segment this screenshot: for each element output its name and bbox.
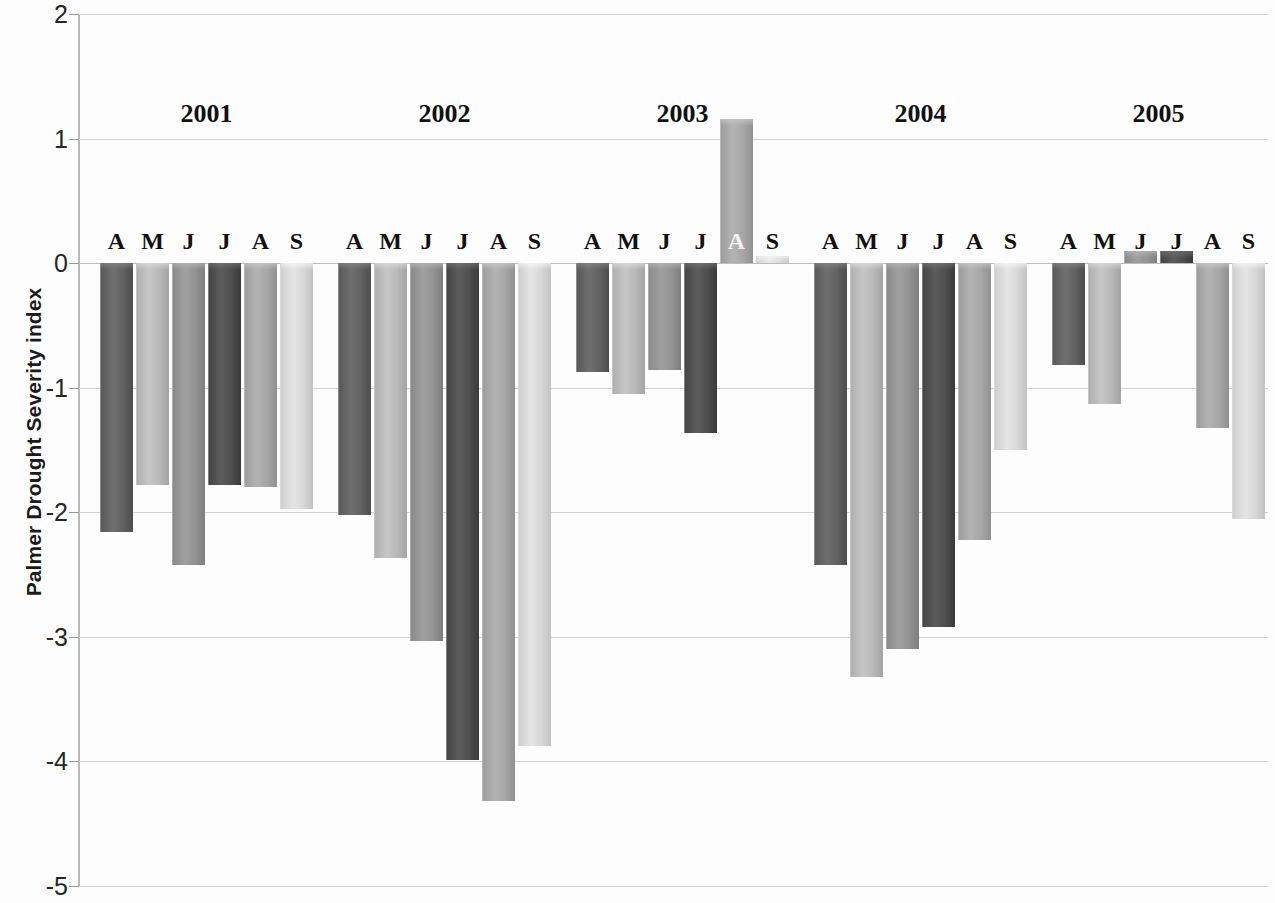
month-label-j-2: J xyxy=(183,228,195,255)
bar[interactable] xyxy=(850,263,883,677)
bar-top-highlight xyxy=(721,119,753,126)
month-label-j-2: J xyxy=(1135,228,1147,255)
year-label-2003: 2003 xyxy=(657,99,709,129)
month-label-a-0: A xyxy=(1060,228,1077,255)
palmer-drought-severity-bar-chart: Palmer Drought Severity index 210-1-2-3-… xyxy=(0,0,1275,903)
bar[interactable] xyxy=(814,263,847,564)
bar-top-highlight xyxy=(685,263,717,270)
bar[interactable] xyxy=(446,263,479,760)
bar-top-highlight xyxy=(173,263,205,270)
bar[interactable] xyxy=(208,263,241,485)
bar[interactable] xyxy=(994,263,1027,450)
y-tick-label: -3 xyxy=(20,622,68,651)
bar[interactable] xyxy=(136,263,169,485)
y-tick-label: 0 xyxy=(20,249,68,278)
y-tickmark xyxy=(69,637,79,638)
bar[interactable] xyxy=(244,263,277,487)
gridline-neg5 xyxy=(78,886,1268,887)
bar-top-highlight xyxy=(1233,263,1265,270)
y-tick-label: -5 xyxy=(20,872,68,901)
y-tick-label: -4 xyxy=(20,747,68,776)
month-label-j-3: J xyxy=(1171,228,1183,255)
bar-top-highlight xyxy=(815,263,847,270)
bar[interactable] xyxy=(576,263,609,371)
bar[interactable] xyxy=(100,263,133,532)
month-label-m-1: M xyxy=(379,228,402,255)
month-label-s-5: S xyxy=(290,228,303,255)
gridline-neg2 xyxy=(78,512,1268,513)
bar-top-highlight xyxy=(447,263,479,270)
bar[interactable] xyxy=(280,263,313,508)
bar[interactable] xyxy=(648,263,681,370)
bar[interactable] xyxy=(886,263,919,649)
month-label-a-0: A xyxy=(346,228,363,255)
bar-top-highlight xyxy=(851,263,883,270)
month-label-a-0: A xyxy=(822,228,839,255)
year-label-2004: 2004 xyxy=(895,99,947,129)
month-label-s-5: S xyxy=(1242,228,1255,255)
bar-top-highlight xyxy=(1089,263,1121,270)
bar[interactable] xyxy=(338,263,371,515)
bar[interactable] xyxy=(1052,263,1085,365)
month-label-j-3: J xyxy=(457,228,469,255)
gridline-neg3 xyxy=(78,637,1268,638)
y-tick-label: -2 xyxy=(20,498,68,527)
month-label-j-2: J xyxy=(421,228,433,255)
month-label-m-1: M xyxy=(1093,228,1116,255)
bar[interactable] xyxy=(958,263,991,540)
month-label-a-0: A xyxy=(108,228,125,255)
y-tick-label: 1 xyxy=(20,124,68,153)
bar[interactable] xyxy=(612,263,645,394)
plot-area: 2001AMJJAS2002AMJJAS2003AMJJAS2004AMJJAS… xyxy=(78,14,1268,886)
bar[interactable] xyxy=(1232,263,1265,518)
month-label-a-4: A xyxy=(966,228,983,255)
month-label-j-3: J xyxy=(933,228,945,255)
month-label-a-0: A xyxy=(584,228,601,255)
month-label-j-3: J xyxy=(219,228,231,255)
month-label-a-4: A xyxy=(490,228,507,255)
y-tickmark xyxy=(69,14,79,15)
bar[interactable] xyxy=(1088,263,1121,404)
bar-top-highlight xyxy=(1053,263,1085,270)
bar-top-highlight xyxy=(923,263,955,270)
bar-top-highlight xyxy=(649,263,681,270)
bar[interactable] xyxy=(482,263,515,801)
bar-top-highlight xyxy=(137,263,169,270)
y-axis-tick-labels: 210-1-2-3-4-5 xyxy=(0,0,68,903)
month-label-j-3: J xyxy=(695,228,707,255)
bar-top-highlight xyxy=(995,263,1027,270)
y-tickmark xyxy=(69,886,79,887)
bar-top-highlight xyxy=(281,263,313,270)
bar[interactable] xyxy=(172,263,205,564)
bar[interactable] xyxy=(518,263,551,746)
y-axis-line xyxy=(78,14,80,886)
y-tick-label: -1 xyxy=(20,373,68,402)
bar-top-highlight xyxy=(959,263,991,270)
bar[interactable] xyxy=(922,263,955,627)
y-tickmark xyxy=(69,263,79,264)
bar-top-highlight xyxy=(613,263,645,270)
bar[interactable] xyxy=(1196,263,1229,427)
month-label-m-1: M xyxy=(141,228,164,255)
bar-top-highlight xyxy=(101,263,133,270)
year-label-2002: 2002 xyxy=(419,99,471,129)
bar[interactable] xyxy=(374,263,407,558)
gridline-neg4 xyxy=(78,761,1268,762)
month-label-m-1: M xyxy=(855,228,878,255)
bar[interactable] xyxy=(684,263,717,432)
month-label-a-4: A xyxy=(728,228,745,255)
month-label-s-5: S xyxy=(528,228,541,255)
y-tickmark xyxy=(69,388,79,389)
year-label-2005: 2005 xyxy=(1133,99,1185,129)
bar-top-highlight xyxy=(519,263,551,270)
y-tickmark xyxy=(69,139,79,140)
bar-top-highlight xyxy=(757,256,789,263)
y-tickmark xyxy=(69,761,79,762)
bar[interactable] xyxy=(756,256,789,263)
month-label-a-4: A xyxy=(252,228,269,255)
bar-top-highlight xyxy=(887,263,919,270)
year-label-2001: 2001 xyxy=(181,99,233,129)
bar-top-highlight xyxy=(375,263,407,270)
bar-top-highlight xyxy=(245,263,277,270)
bar[interactable] xyxy=(410,263,443,640)
